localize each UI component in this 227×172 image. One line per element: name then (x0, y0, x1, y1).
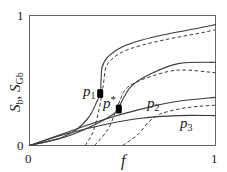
curve-pstar-solid (30, 62, 216, 145)
label-p3: p3 (179, 115, 193, 133)
x-tick-1: 1 (211, 151, 218, 166)
label-pstar: p* (102, 93, 116, 111)
x-tick-0: 0 (25, 151, 32, 166)
y-tick-1: 1 (17, 8, 24, 23)
label-p2: p2 (146, 95, 160, 113)
y-label-sep: , (7, 92, 23, 100)
y-label-sub2: Gb (14, 72, 25, 84)
y-tick-0: 0 (17, 138, 24, 153)
svg-text:Sb, SGb: Sb, SGb (7, 72, 25, 112)
x-axis-label: f (121, 152, 128, 170)
marker-pstar (116, 105, 122, 114)
y-axis-label: Sb, SGb (7, 72, 25, 112)
curve-p1-dashed (85, 30, 215, 146)
label-p1: p1 (82, 83, 96, 101)
curve-p2-dashed (123, 105, 216, 145)
chart: 1 0 0 1 f Sb, SGb p1 p* p2 p3 (0, 0, 227, 172)
